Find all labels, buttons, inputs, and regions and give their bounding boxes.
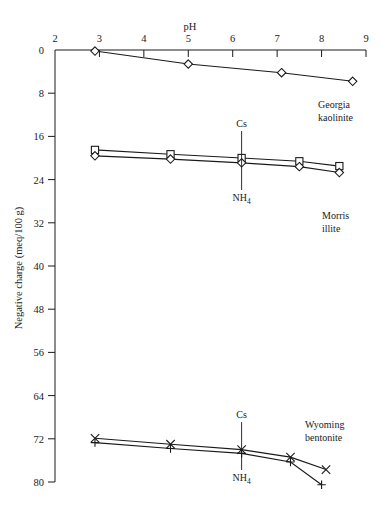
marker-plus xyxy=(166,444,174,452)
y-tick-label: 64 xyxy=(34,391,45,402)
y-tick-label: 56 xyxy=(34,347,45,358)
wyoming-bentonite-nh4-label: NH4 xyxy=(232,472,250,486)
x-tick-label: 4 xyxy=(141,33,147,44)
morris-illite-cs-label: Cs xyxy=(236,118,247,129)
wyoming-bentonite-cs-label: Cs xyxy=(236,409,247,420)
y-tick-label: 72 xyxy=(34,434,45,445)
x-tick-label: 8 xyxy=(319,33,324,44)
morris-illite-nh4-label: NH4 xyxy=(232,192,250,206)
y-tick-label: 16 xyxy=(34,131,45,142)
chart-figure: 2345678908162432404856647280 Georgiakaol… xyxy=(0,0,381,505)
marker-diamond xyxy=(184,60,192,68)
negative-charge-vs-ph-chart: 2345678908162432404856647280 Georgiakaol… xyxy=(0,0,381,505)
x-tick-label: 7 xyxy=(275,33,280,44)
marker-diamond xyxy=(348,77,356,85)
x-tick-label: 9 xyxy=(363,33,368,44)
marker-plus xyxy=(286,458,294,466)
annotations-group: GeorgiakaoliniteMorrisilliteWyomingbento… xyxy=(232,99,353,486)
y-axis-title: Negative charge (meq/100 g) xyxy=(13,206,25,329)
morris-illite-label: illite xyxy=(322,223,341,234)
morris-illite-label: Morris xyxy=(322,210,349,221)
y-tick-label: 40 xyxy=(34,261,45,272)
x-tick-label: 3 xyxy=(97,33,102,44)
y-tick-label: 80 xyxy=(34,477,45,488)
series-line-georgia-kaolinite-cs xyxy=(95,51,353,81)
y-tick-label: 8 xyxy=(39,88,44,99)
marker-diamond xyxy=(91,47,99,55)
y-tick-label: 48 xyxy=(34,304,45,315)
series-line-wyoming-bentonite-cs xyxy=(95,438,326,469)
y-tick-label: 24 xyxy=(34,175,45,186)
x-tick-label: 5 xyxy=(186,33,191,44)
x-tick-label: 6 xyxy=(230,33,235,44)
marker-diamond xyxy=(277,68,285,76)
y-tick-label: 32 xyxy=(34,218,45,229)
wyoming-bentonite-label: Wyoming xyxy=(305,419,344,430)
georgia-kaolinite-label: Georgia xyxy=(318,99,351,110)
y-tick-label: 0 xyxy=(39,45,44,56)
x-tick-label: 2 xyxy=(52,33,57,44)
georgia-kaolinite-label: kaolinite xyxy=(318,112,354,123)
x-axis-title: pH xyxy=(184,21,197,32)
wyoming-bentonite-label: bentonite xyxy=(305,432,343,443)
marker-plus xyxy=(317,481,325,489)
series-line-wyoming-bentonite-nh4 xyxy=(95,443,322,485)
marker-x xyxy=(322,465,330,473)
marker-plus xyxy=(91,438,99,446)
